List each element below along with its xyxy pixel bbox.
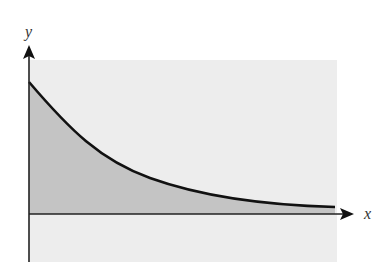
y-axis-label: y	[23, 23, 33, 41]
x-axis-label: x	[363, 205, 371, 222]
area-under-curve-diagram: y x	[0, 0, 383, 277]
